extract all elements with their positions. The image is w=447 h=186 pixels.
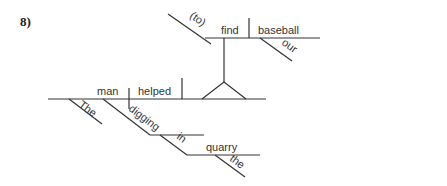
word-participle: digging [127,102,163,133]
word-subject-modifier: The [77,98,99,119]
word-infinitive-marker: (to) [188,9,208,28]
word-verb: helped [138,85,171,97]
word-infinitive-object: baseball [258,24,299,36]
word-infinitive-object-modifier: our [280,36,300,55]
object-pedestal [202,82,246,99]
word-prep-object: quarry [206,141,238,153]
word-subject: man [97,85,118,97]
sentence-diagram: 8) man helped The digging in quarry the … [0,0,447,186]
word-preposition: in [175,130,189,145]
problem-number: 8) [20,14,31,29]
word-infinitive-verb: find [221,24,239,36]
